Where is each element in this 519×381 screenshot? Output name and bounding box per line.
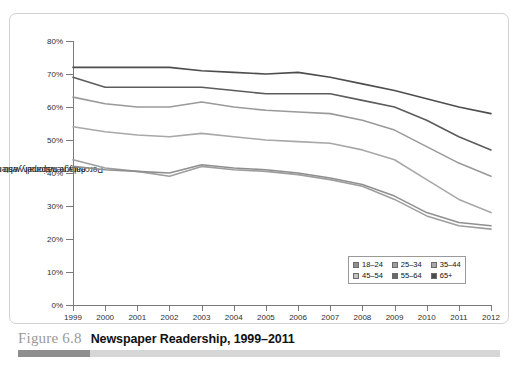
- x-tick: [459, 305, 460, 311]
- legend-label: 35–44: [440, 260, 461, 269]
- x-tick: [202, 305, 203, 311]
- x-tick-label: 2007: [321, 313, 339, 322]
- x-tick-label: 2006: [289, 313, 307, 322]
- legend-label: 55–64: [401, 271, 422, 280]
- legend-swatch-icon: [353, 273, 359, 279]
- x-tick-label: 2003: [193, 313, 211, 322]
- y-tick: [66, 239, 73, 240]
- x-tick: [395, 305, 396, 311]
- y-tick-label: 70%: [47, 70, 63, 79]
- x-tick-label: 2012: [482, 313, 500, 322]
- y-tick: [66, 305, 73, 306]
- legend-label: 25–34: [401, 260, 422, 269]
- x-tick: [427, 305, 428, 311]
- x-tick-label: 2004: [225, 313, 243, 322]
- x-tick: [137, 305, 138, 311]
- x-tick: [105, 305, 106, 311]
- y-tick-label: 40%: [47, 169, 63, 178]
- figure-container: Percentage nationally who read any daily…: [0, 0, 519, 381]
- legend-item: 35–44: [431, 260, 461, 269]
- legend-item: 65+: [431, 271, 461, 280]
- caption-figure-number: Figure 6.8: [18, 330, 82, 347]
- legend-swatch-icon: [431, 262, 437, 268]
- caption-rule: [18, 350, 500, 357]
- x-tick-label: 2005: [257, 313, 275, 322]
- x-tick-label: 2009: [386, 313, 404, 322]
- legend-swatch-icon: [353, 262, 359, 268]
- legend-label: 18–24: [362, 260, 383, 269]
- x-tick: [330, 305, 331, 311]
- y-tick-label: 30%: [47, 202, 63, 211]
- x-tick: [73, 305, 74, 311]
- x-tick: [298, 305, 299, 311]
- y-axis-line: [73, 41, 74, 306]
- y-tick: [66, 206, 73, 207]
- x-tick-label: 2011: [450, 313, 467, 322]
- legend-swatch-icon: [431, 273, 437, 279]
- y-tick: [66, 41, 73, 42]
- caption-rule-dark: [18, 350, 90, 357]
- x-tick-label: 1999: [64, 313, 82, 322]
- x-axis-line: [73, 305, 492, 306]
- x-tick: [362, 305, 363, 311]
- y-tick: [66, 272, 73, 273]
- y-tick-label: 80%: [47, 37, 63, 46]
- y-tick-label: 0%: [51, 301, 63, 310]
- legend-item: 45–54: [353, 271, 383, 280]
- legend-swatch-icon: [392, 262, 398, 268]
- legend-label: 45–54: [362, 271, 383, 280]
- y-tick-label: 10%: [47, 268, 63, 277]
- figure-caption: Figure 6.8 Newspaper Readership, 1999–20…: [18, 330, 500, 357]
- caption-title: Newspaper Readership, 1999–2011: [91, 332, 295, 346]
- x-tick: [234, 305, 235, 311]
- chart-legend: 18–2425–3435–4445–5455–6465+: [348, 256, 466, 284]
- legend-item: 25–34: [392, 260, 422, 269]
- legend-item: 18–24: [353, 260, 383, 269]
- caption-rule-light: [90, 350, 500, 357]
- y-tick: [66, 107, 73, 108]
- x-tick: [266, 305, 267, 311]
- legend-item: 55–64: [392, 271, 422, 280]
- y-tick-label: 50%: [47, 136, 63, 145]
- y-tick: [66, 74, 73, 75]
- legend-label: 65+: [440, 271, 453, 280]
- x-tick-label: 2008: [353, 313, 371, 322]
- y-tick: [66, 140, 73, 141]
- x-tick-label: 2001: [128, 313, 146, 322]
- x-tick-label: 2010: [418, 313, 436, 322]
- y-tick-label: 60%: [47, 103, 63, 112]
- x-tick-label: 2002: [161, 313, 179, 322]
- x-tick: [169, 305, 170, 311]
- y-tick: [66, 173, 73, 174]
- x-tick-label: 2000: [96, 313, 114, 322]
- legend-swatch-icon: [392, 273, 398, 279]
- x-tick: [491, 305, 492, 311]
- y-tick-label: 20%: [47, 235, 63, 244]
